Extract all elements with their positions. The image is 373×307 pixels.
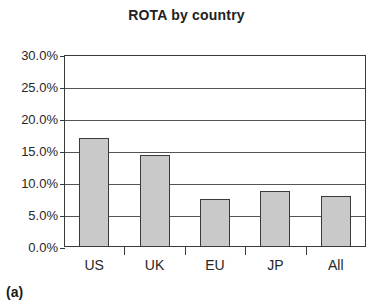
chart-figure: ROTA by country 0.0%5.0%10.0%15.0%20.0%2… (0, 0, 373, 307)
gridline (65, 184, 365, 185)
y-tick-label: 10.0% (0, 176, 58, 191)
x-tick-label-eu: EU (205, 257, 224, 273)
x-tick-label-all: All (328, 257, 344, 273)
gridline (65, 216, 365, 217)
y-tick-mark (60, 184, 65, 185)
chart-title: ROTA by country (0, 7, 373, 23)
y-tick-mark (60, 56, 65, 57)
plot-area (64, 55, 366, 247)
y-tick-label: 20.0% (0, 112, 58, 127)
y-tick-mark (60, 120, 65, 121)
y-tick-label: 5.0% (0, 208, 58, 223)
y-tick-mark (60, 216, 65, 217)
y-tick-mark (60, 152, 65, 153)
y-tick-label: 0.0% (0, 240, 58, 255)
x-tick-label-uk: UK (145, 257, 164, 273)
gridline (65, 120, 365, 121)
figure-caption: (a) (6, 284, 23, 300)
y-tick-label: 30.0% (0, 48, 58, 63)
x-tick-label-jp: JP (267, 257, 283, 273)
x-axis: USUKEUJPAll (64, 247, 366, 287)
gridline (65, 152, 365, 153)
x-tick-mark (124, 247, 125, 255)
y-axis: 0.0%5.0%10.0%15.0%20.0%25.0%30.0% (0, 55, 58, 247)
x-tick-mark (306, 247, 307, 255)
y-tick-mark (60, 88, 65, 89)
y-tick-label: 25.0% (0, 80, 58, 95)
y-tick-label: 15.0% (0, 144, 58, 159)
x-tick-mark (245, 247, 246, 255)
x-tick-label-us: US (84, 257, 103, 273)
x-tick-mark (185, 247, 186, 255)
gridline (65, 88, 365, 89)
